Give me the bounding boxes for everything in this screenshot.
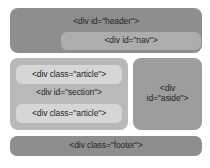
article-label-1: <div class="article"> [32,70,106,80]
section-block: <div class="article"> <div id="section">… [10,58,128,130]
nav-label: <div id="nav"> [104,36,157,46]
article-block-2: <div class="article"> [16,104,122,123]
aside-block: <div id="aside"> [133,58,202,130]
footer-block: <div class="footer"> [10,136,202,156]
footer-label: <div class="footer"> [69,141,142,151]
header-label: <div id="header"> [10,17,202,27]
layout-diagram: <div id="header"> <div id="nav"> <div cl… [0,0,210,168]
aside-label-line-2: id="aside"> [147,94,189,104]
article-label-2: <div class="article"> [32,109,106,119]
header-block: <div id="header"> <div id="nav"> [10,8,202,53]
article-block-1: <div class="article"> [16,65,122,84]
nav-block: <div id="nav"> [61,32,201,50]
section-label: <div id="section"> [10,88,128,98]
